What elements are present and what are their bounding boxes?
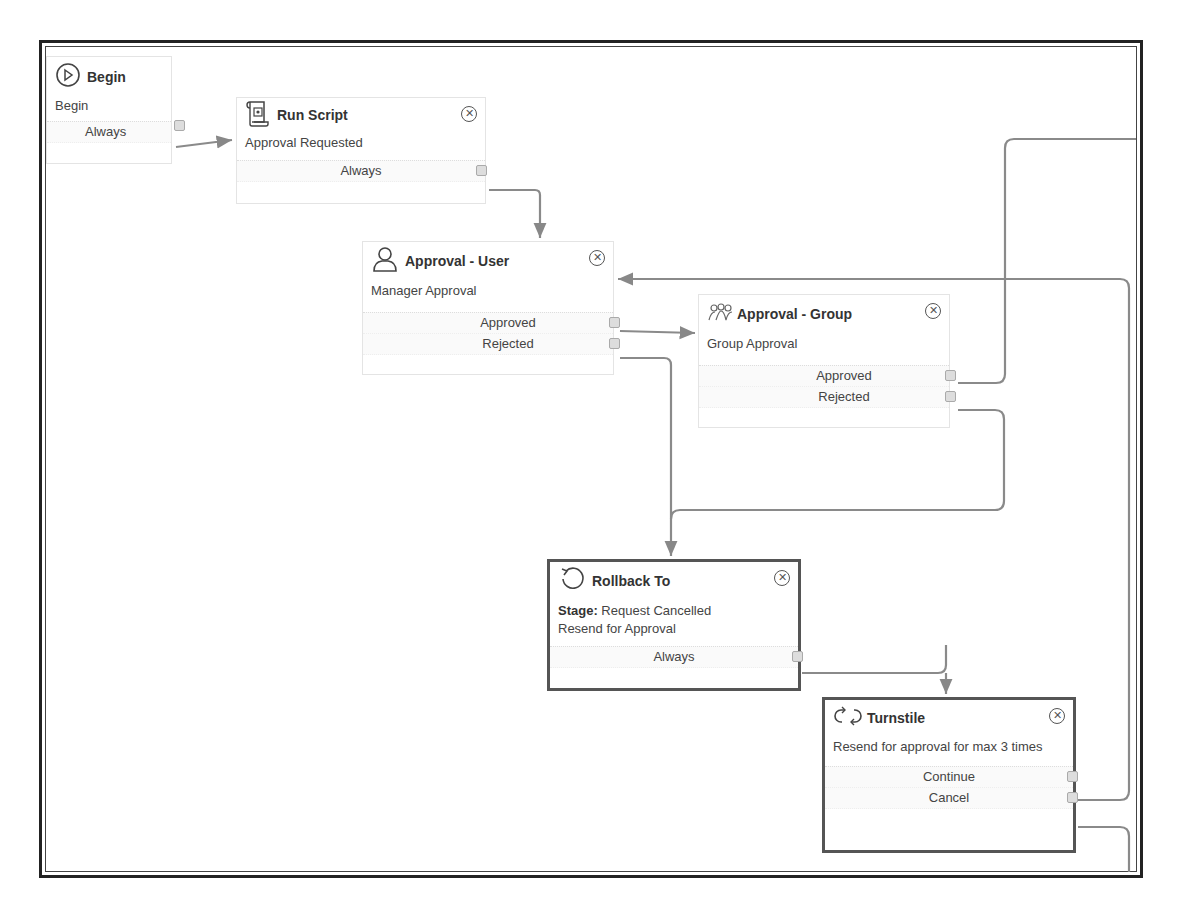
node-outlets: Always (237, 160, 485, 182)
node-rollback-to[interactable]: Rollback To ✕ Stage: Request Cancelled R… (547, 559, 801, 691)
close-icon[interactable]: ✕ (589, 250, 605, 266)
outlet-approved[interactable]: Approved (363, 313, 613, 334)
node-outlets: Always (47, 121, 171, 143)
outlet-port[interactable] (609, 317, 620, 328)
close-icon[interactable]: ✕ (1049, 708, 1065, 724)
outlet-rejected[interactable]: Rejected (699, 387, 949, 408)
node-description: Resend for approval for max 3 times (825, 736, 1073, 762)
node-title: Rollback To (592, 573, 670, 589)
outlet-port[interactable] (945, 391, 956, 402)
outlet-continue[interactable]: Continue (825, 767, 1073, 788)
node-outlets: Approved Rejected (699, 365, 949, 408)
node-description: Begin (47, 97, 171, 121)
node-outlets: Approved Rejected (363, 312, 613, 355)
node-outlets: Continue Cancel (825, 766, 1073, 809)
rollback-icon (558, 565, 586, 597)
node-approval-group[interactable]: Approval - Group ✕ Group Approval Approv… (698, 294, 950, 428)
node-title: Begin (87, 69, 126, 85)
outlet-label: Approved (816, 368, 872, 383)
stage-label: Stage: (558, 603, 598, 618)
node-run-script[interactable]: Run Script ✕ Approval Requested Always (236, 97, 486, 204)
outlet-label: Always (653, 649, 694, 664)
node-description: Stage: Request Cancelled Resend for Appr… (550, 600, 798, 644)
outlet-label: Always (85, 124, 126, 139)
outlet-port[interactable] (174, 120, 185, 131)
outlet-label: Continue (923, 769, 975, 784)
group-icon (707, 300, 735, 328)
play-circle-icon (55, 62, 81, 92)
close-icon[interactable]: ✕ (774, 570, 790, 586)
user-icon (371, 245, 399, 277)
node-outlets: Always (550, 646, 798, 668)
outlet-always[interactable]: Always (550, 647, 798, 668)
outlet-port[interactable] (1067, 771, 1078, 782)
outlet-label: Cancel (929, 790, 969, 805)
outlet-port[interactable] (792, 651, 803, 662)
description-line2: Resend for Approval (558, 621, 676, 636)
outlet-always[interactable]: Always (47, 122, 171, 143)
node-title: Approval - User (405, 253, 509, 269)
outlet-label: Rejected (482, 336, 533, 351)
node-approval-user[interactable]: Approval - User ✕ Manager Approval Appro… (362, 241, 614, 375)
outlet-approved[interactable]: Approved (699, 366, 949, 387)
outlet-port[interactable] (1067, 792, 1078, 803)
outlet-port[interactable] (609, 338, 620, 349)
node-title: Run Script (277, 107, 348, 123)
node-turnstile[interactable]: Turnstile ✕ Resend for approval for max … (822, 697, 1076, 853)
node-title: Approval - Group (737, 306, 852, 322)
node-begin[interactable]: Begin Begin Always (46, 56, 172, 164)
outlet-cancel[interactable]: Cancel (825, 788, 1073, 809)
close-icon[interactable]: ✕ (925, 303, 941, 319)
close-icon[interactable]: ✕ (461, 106, 477, 122)
outlet-label: Always (340, 163, 381, 178)
node-description: Manager Approval (363, 280, 613, 306)
outlet-always[interactable]: Always (237, 161, 485, 182)
node-title: Turnstile (867, 710, 925, 726)
outlet-label: Rejected (818, 389, 869, 404)
stage-value: Request Cancelled (601, 603, 711, 618)
script-scroll-icon (245, 99, 271, 131)
turnstile-icon (833, 704, 863, 732)
outlet-port[interactable] (945, 370, 956, 381)
outlet-label: Approved (480, 315, 536, 330)
outlet-port[interactable] (476, 165, 487, 176)
outlet-rejected[interactable]: Rejected (363, 334, 613, 355)
node-description: Approval Requested (237, 132, 485, 158)
node-description: Group Approval (699, 333, 949, 359)
